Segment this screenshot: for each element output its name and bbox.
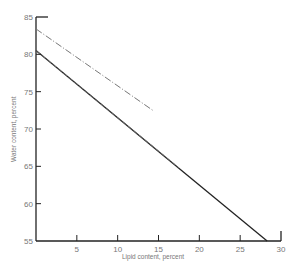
y-tick-label: 55 xyxy=(24,237,33,246)
y-tick-label: 70 xyxy=(24,125,33,134)
y-tick-label: 85 xyxy=(24,13,33,22)
chart: 55606570758085 51015202530 Lipid content… xyxy=(0,0,295,270)
y-tick-label: 80 xyxy=(24,50,33,59)
x-axis-label: Lipid content, percent xyxy=(122,253,184,261)
x-tick-label: 30 xyxy=(277,245,286,254)
y-tick-label: 65 xyxy=(24,162,33,171)
x-tick-label: 25 xyxy=(236,245,245,254)
y-axis-label: Water content, percent xyxy=(10,96,18,162)
y-tick-label: 75 xyxy=(24,88,33,97)
x-axis: 51015202530 xyxy=(36,231,286,254)
plot-lines xyxy=(36,29,267,241)
y-axis: 55606570758085 xyxy=(24,13,48,246)
x-tick-label: 5 xyxy=(75,245,80,254)
x-tick-label: 20 xyxy=(195,245,204,254)
y-tick-label: 60 xyxy=(24,200,33,209)
